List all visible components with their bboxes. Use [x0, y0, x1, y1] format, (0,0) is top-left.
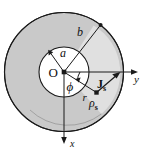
y-axis-label: y	[133, 73, 139, 85]
outer-radius-endpoint-dot	[99, 23, 103, 27]
origin-label: O	[49, 65, 58, 80]
x-axis-arrowhead	[61, 137, 67, 144]
surface-charge-subscript: s	[95, 103, 98, 112]
inner-radius-label-a: a	[60, 46, 66, 60]
surface-current-subscript: s	[103, 84, 106, 93]
origin-marker	[62, 70, 67, 75]
x-axis-label: x	[69, 138, 75, 149]
radial-distance-label-r: r	[83, 91, 88, 103]
outer-radius-label-b: b	[77, 25, 83, 39]
diagram-svg: O a b r ϕ Js ρs y x	[0, 0, 146, 149]
angle-phi-label: ϕ	[67, 79, 74, 94]
figure-canvas: O a b r ϕ Js ρs y x	[0, 0, 146, 149]
